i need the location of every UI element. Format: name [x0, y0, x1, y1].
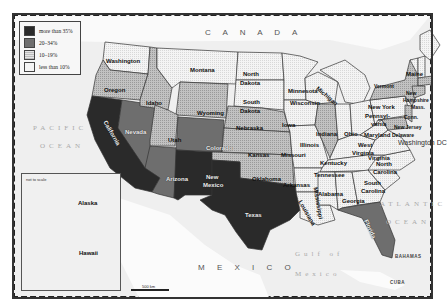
legend-label: 20–34%: [39, 40, 57, 46]
label-pennsylvania: Pennsyl-: [365, 113, 390, 119]
label-north-carolina: North: [376, 161, 392, 167]
label-georgia: Georgia: [342, 198, 365, 204]
label-washington: Washington: [106, 58, 140, 64]
legend-label: 10–19%: [39, 52, 57, 58]
label-oregon: Oregon: [104, 87, 125, 93]
label-south-dakota: South: [243, 99, 260, 105]
label-west-virginia: West: [358, 142, 372, 148]
label-west-virginia-2: Virginia: [352, 150, 374, 156]
legend-swatch: [24, 50, 35, 60]
label-nevada: Nevada: [125, 129, 146, 135]
label-idaho: Idaho: [146, 100, 162, 106]
label-illinois: Illinois: [300, 142, 319, 148]
label-oklahoma: Oklahoma: [252, 176, 281, 182]
label-north-dakota: North: [243, 71, 259, 77]
label-south-carolina-2: Carolina: [361, 188, 385, 194]
legend-item: more than 35%: [24, 25, 76, 37]
label-maryland: Maryland: [364, 132, 390, 138]
label-texas: Texas: [245, 212, 262, 218]
label-nebraska: Nebraska: [236, 125, 263, 131]
label-iowa: Iowa: [282, 122, 295, 128]
label-delaware: Delaware: [392, 133, 414, 138]
label-conn: Conn.: [404, 115, 418, 120]
legend-swatch: [24, 26, 35, 36]
label-colorado: Colorado: [206, 145, 232, 151]
label-bahamas: BAHAMAS: [395, 254, 422, 259]
label-gulf-of: Gulf of: [295, 250, 343, 258]
label-ohio: Ohio: [344, 131, 358, 137]
label-canada: C A N A D A: [205, 28, 302, 37]
legend-item: less than 10%: [24, 61, 76, 73]
label-south-carolina: South: [364, 180, 381, 186]
label-south-dakota-2: Dakota: [240, 108, 260, 114]
label-indiana: Indiana: [316, 131, 337, 137]
legend-label: more than 35%: [39, 28, 73, 34]
label-wyoming: Wyoming: [197, 110, 224, 116]
label-new-hampshire-2: Hampshire: [403, 98, 429, 103]
alaska-hawaii-inset: not to scale: [21, 173, 121, 291]
label-new-york: New York: [368, 104, 395, 110]
label-mexico: M E X I C O: [198, 263, 296, 272]
inset-note: not to scale: [26, 177, 46, 182]
label-missouri: Missouri: [281, 152, 306, 158]
legend-item: 20–34%: [24, 37, 76, 49]
scale-bar: [131, 289, 169, 291]
label-cuba: CUBA: [390, 280, 405, 285]
state-maine: [420, 30, 440, 60]
label-washington-dc: Washington DC: [398, 139, 447, 146]
label-kansas: Kansas: [248, 152, 269, 158]
label-pacific-ocean: OCEAN: [40, 142, 84, 150]
label-new-jersey: New Jersey: [394, 125, 422, 130]
label-new-mexico-2: Mexico: [203, 182, 223, 188]
label-gulf-mexico: Mexico: [295, 270, 340, 278]
label-minnesota: Minnesota: [288, 88, 318, 94]
label-alaska: Alaska: [78, 200, 97, 206]
label-hawaii: Hawaii: [79, 250, 98, 256]
label-kentucky: Kentucky: [320, 160, 347, 166]
legend-label: less than 10%: [39, 64, 70, 70]
label-maine: Maine: [406, 71, 423, 77]
label-new-hampshire: New: [406, 91, 416, 96]
legend-swatch: [24, 38, 35, 48]
label-atlantic: ATLANTIC: [380, 200, 446, 208]
map-legend: more than 35% 20–34% 10–19% less than 10…: [19, 21, 81, 75]
label-mass: Mass.: [411, 105, 425, 110]
label-north-dakota-2: Dakota: [240, 80, 260, 86]
label-arizona: Arizona: [166, 176, 188, 182]
label-new-mexico: New: [206, 174, 218, 180]
label-pennsylvania-2: vania: [371, 121, 386, 127]
legend-item: 10–19%: [24, 49, 76, 61]
label-alabama: Alabama: [318, 191, 343, 197]
label-wisconsin: Wisconsin: [290, 100, 320, 106]
state-kansas: [222, 128, 292, 155]
legend-swatch: [24, 62, 35, 72]
label-atlantic-ocean: OCEAN: [386, 218, 430, 226]
label-vermont: Vermont: [374, 84, 394, 89]
label-pacific: PACIFIC: [33, 124, 87, 132]
label-tennessee: Tennessee: [314, 172, 345, 178]
label-north-carolina-2: Carolina: [373, 169, 397, 175]
label-utah: Utah: [168, 137, 181, 143]
label-montana: Montana: [190, 67, 215, 73]
label-arkansas: Arkansas: [283, 182, 310, 188]
state-mass: [418, 76, 432, 86]
